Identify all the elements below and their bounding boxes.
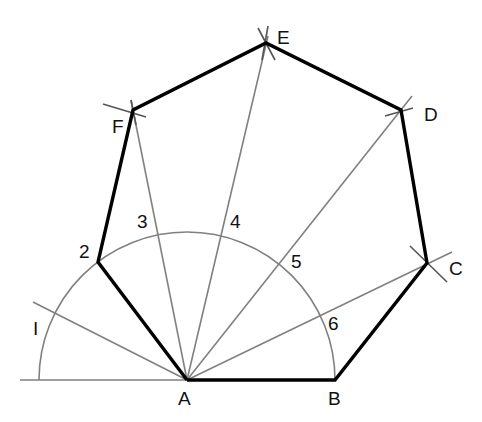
- ray-1: [33, 302, 187, 380]
- ray-6-to-C: [187, 252, 452, 380]
- label-division-4: 4: [230, 211, 241, 232]
- label-division-5: 5: [291, 251, 302, 272]
- label-division-6: 6: [328, 313, 339, 334]
- label-b: B: [328, 388, 341, 409]
- heptagon-construction-diagram: A B C D E F I 2 3 4 5 6: [0, 0, 482, 422]
- label-f: F: [112, 116, 124, 137]
- label-division-2: 2: [79, 241, 90, 262]
- label-a: A: [178, 388, 191, 409]
- label-division-3: 3: [137, 211, 148, 232]
- label-d: D: [424, 104, 438, 125]
- label-c: C: [449, 258, 463, 279]
- label-division-1: I: [33, 318, 38, 339]
- label-e: E: [277, 27, 290, 48]
